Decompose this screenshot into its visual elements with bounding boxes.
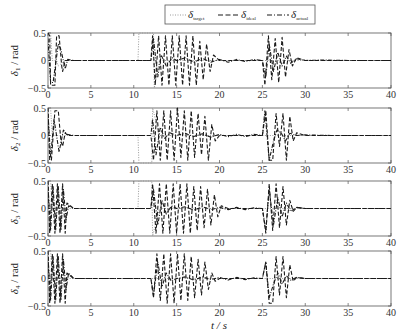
x-tick-label: 5 — [88, 237, 93, 248]
x-tick-label: 20 — [215, 164, 225, 175]
x-tick-label: 10 — [129, 237, 139, 248]
x-tick-label: 35 — [343, 164, 353, 175]
y-axis-label: δ4 / rad — [8, 262, 22, 294]
y-tick-label: 0.5 — [34, 28, 47, 39]
x-tick-label: 20 — [215, 89, 225, 100]
x-tick-label: 30 — [300, 164, 310, 175]
y-tick-label: 0.5 — [34, 103, 47, 114]
panel-2: 0510152025303540−0.500.5δ2 / rad — [8, 103, 396, 176]
y-tick-label: −0.5 — [28, 158, 46, 169]
x-tick-label: 0 — [46, 89, 51, 100]
y-tick-label: 0.5 — [34, 176, 47, 187]
x-tick-label: 10 — [129, 164, 139, 175]
x-tick-label: 35 — [343, 307, 353, 318]
y-axis-label: δ1 / rad — [8, 44, 22, 76]
y-axis-label: δ2 / rad — [8, 119, 22, 151]
panel-4: 0510152025303540−0.500.5δ4 / rad — [8, 246, 396, 319]
x-tick-label: 40 — [386, 164, 396, 175]
x-tick-label: 5 — [88, 307, 93, 318]
x-tick-label: 15 — [172, 237, 182, 248]
x-tick-label: 20 — [215, 237, 225, 248]
x-tick-label: 15 — [172, 89, 182, 100]
x-axis-label: t / s — [211, 319, 227, 331]
y-tick-label: 0.5 — [34, 246, 47, 257]
x-tick-label: 40 — [386, 237, 396, 248]
panels: 0510152025303540−0.500.5δ1 / rad05101520… — [8, 28, 396, 319]
x-tick-label: 40 — [386, 89, 396, 100]
x-tick-label: 25 — [257, 164, 267, 175]
x-tick-label: 40 — [386, 307, 396, 318]
x-tick-label: 25 — [257, 307, 267, 318]
y-axis-label: δ3 / rad — [8, 192, 22, 224]
x-tick-label: 30 — [300, 237, 310, 248]
legend: δtarget δideal δactual — [165, 5, 315, 24]
x-tick-label: 10 — [129, 307, 139, 318]
x-tick-label: 5 — [88, 164, 93, 175]
x-tick-label: 10 — [129, 89, 139, 100]
x-tick-label: 25 — [257, 89, 267, 100]
x-tick-label: 0 — [46, 164, 51, 175]
panel-3: 0510152025303540−0.500.5δ3 / rad — [8, 176, 396, 249]
y-tick-label: −0.5 — [28, 231, 46, 242]
x-tick-label: 35 — [343, 89, 353, 100]
x-tick-label: 15 — [172, 307, 182, 318]
x-tick-label: 5 — [88, 89, 93, 100]
x-tick-label: 30 — [300, 89, 310, 100]
y-tick-label: 0 — [41, 130, 46, 141]
y-tick-label: −0.5 — [28, 301, 46, 312]
x-tick-label: 25 — [257, 237, 267, 248]
y-tick-label: 0 — [41, 55, 46, 66]
y-tick-label: 0 — [41, 273, 46, 284]
y-tick-label: 0 — [41, 203, 46, 214]
x-tick-label: 35 — [343, 237, 353, 248]
panel-1: 0510152025303540−0.500.5δ1 / rad — [8, 28, 396, 101]
y-tick-label: −0.5 — [28, 83, 46, 94]
figure: δtarget δideal δactual 0510152025303540−… — [0, 0, 409, 336]
x-tick-label: 0 — [46, 307, 51, 318]
x-tick-label: 20 — [215, 307, 225, 318]
x-tick-label: 15 — [172, 164, 182, 175]
x-tick-label: 0 — [46, 237, 51, 248]
x-tick-label: 30 — [300, 307, 310, 318]
